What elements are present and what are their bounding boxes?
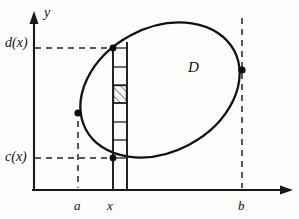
region-d-ellipse-boundary	[57, 0, 264, 184]
intersection-point-c-of-x	[110, 155, 117, 162]
x-tick-label-b: b	[238, 199, 245, 212]
y-axis-label: y	[44, 6, 50, 20]
tangent-point-right-b	[238, 66, 245, 73]
region-d-label: D	[188, 60, 199, 75]
figure-canvas: y d(x) c(x) D a x b	[0, 0, 299, 219]
x-tick-label-a: a	[74, 199, 81, 212]
x-tick-label-x: x	[107, 199, 113, 212]
hatched-sample-cell	[114, 86, 127, 104]
d-of-x-label: d(x)	[5, 36, 28, 50]
intersection-point-d-of-x	[110, 45, 117, 52]
tangent-point-left-a	[74, 109, 81, 116]
diagram-svg	[0, 0, 299, 219]
y-axis-arrowhead	[30, 11, 39, 24]
c-of-x-label: c(x)	[5, 150, 27, 164]
x-axis-arrowhead	[280, 186, 293, 195]
